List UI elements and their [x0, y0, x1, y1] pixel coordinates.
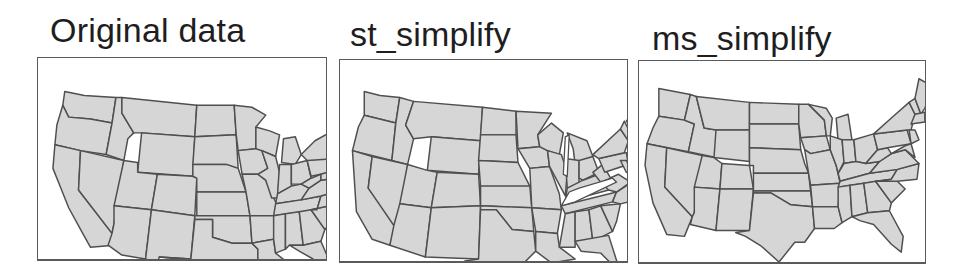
- state-south-dakota: [479, 135, 518, 163]
- state-colorado: [151, 174, 196, 215]
- state-north-dakota: [749, 102, 798, 124]
- state-kansas: [197, 192, 250, 216]
- state-colorado: [720, 163, 754, 189]
- state-arkansas: [811, 183, 841, 207]
- state-montana: [122, 97, 197, 136]
- state-arizona: [690, 187, 720, 230]
- state-montana: [696, 96, 749, 129]
- state-wyoming: [138, 133, 195, 176]
- panel-title-ms-simplify: ms_simplify: [652, 21, 832, 55]
- state-florida: [852, 211, 903, 252]
- state-new-jersey: [909, 130, 919, 144]
- map-frame-original: [37, 57, 327, 261]
- state-new-mexico: [716, 189, 753, 230]
- state-new-york: [874, 102, 915, 134]
- state-wyoming: [427, 137, 480, 174]
- us-map-original: [38, 58, 326, 259]
- state-south-dakota: [749, 124, 800, 150]
- state-arizona: [108, 206, 151, 259]
- state-new-mexico: [425, 206, 480, 259]
- state-montana: [406, 101, 483, 140]
- state-north-dakota: [481, 107, 516, 135]
- us-map-st-simplify: [340, 60, 627, 261]
- state-michigan: [836, 114, 852, 142]
- map-frame-ms-simplify: [638, 60, 926, 264]
- state-nebraska: [193, 164, 246, 192]
- state-michigan: [282, 137, 302, 165]
- state-nebraska: [479, 161, 530, 187]
- state-kansas: [753, 173, 810, 191]
- state-colorado: [431, 172, 480, 207]
- state-new-york: [301, 131, 326, 161]
- map-frame-st-simplify: [339, 59, 628, 263]
- state-north-dakota: [195, 105, 236, 137]
- state-mississippi: [559, 212, 575, 247]
- state-kansas: [481, 186, 532, 208]
- panel-title-original: Original data: [50, 13, 245, 47]
- state-nebraska: [749, 148, 808, 174]
- state-wyoming: [714, 130, 749, 162]
- us-map-ms-simplify: [639, 61, 925, 262]
- state-arkansas: [532, 208, 562, 234]
- state-mississippi: [274, 214, 286, 253]
- state-south-dakota: [193, 135, 238, 169]
- state-new-mexico: [146, 210, 195, 259]
- panel-title-st-simplify: st_simplify: [350, 17, 511, 51]
- state-louisiana: [813, 207, 843, 229]
